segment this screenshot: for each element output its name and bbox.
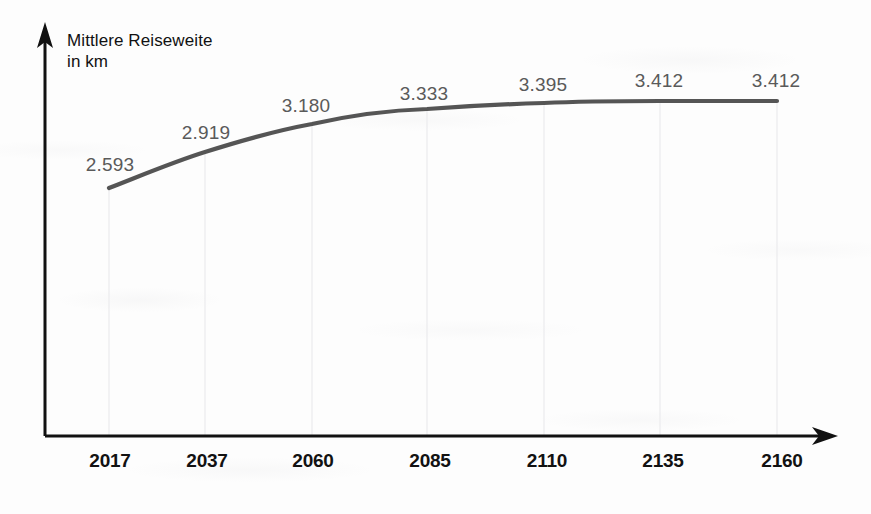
- data-line-series: [109, 101, 777, 188]
- x-axis: [45, 427, 838, 445]
- x-tick-label-2037: 2037: [186, 450, 227, 472]
- chart-page: Mittlere Reiseweite in km 2.593 2.919 3.…: [0, 0, 871, 514]
- x-tick-label-2135: 2135: [642, 450, 683, 472]
- y-axis-title-text: Mittlere Reiseweite in km: [67, 31, 213, 71]
- value-label-2037: 2.919: [182, 122, 231, 144]
- x-tick-label-2017: 2017: [89, 450, 130, 472]
- value-label-2110: 3.395: [519, 74, 568, 96]
- value-label-2060: 3.180: [282, 95, 331, 117]
- y-axis-title: Mittlere Reiseweite in km: [67, 30, 213, 72]
- x-tick-label-2110: 2110: [527, 450, 567, 472]
- value-label-2135: 3.412: [635, 70, 684, 92]
- value-label-2017: 2.593: [86, 154, 135, 176]
- x-tick-label-2085: 2085: [409, 450, 450, 472]
- x-tick-label-2160: 2160: [761, 450, 802, 472]
- x-tick-label-2060: 2060: [292, 450, 333, 472]
- y-axis: [37, 22, 53, 436]
- value-label-2160: 3.412: [752, 70, 801, 92]
- line-chart-graphic: [0, 0, 871, 514]
- value-label-2085: 3.333: [400, 83, 449, 105]
